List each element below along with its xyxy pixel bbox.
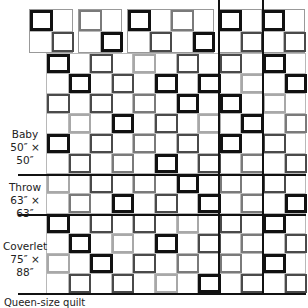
patch-frame	[177, 174, 200, 193]
patch-frame	[263, 134, 286, 153]
grid-cell	[284, 93, 307, 114]
grid-cell	[240, 213, 263, 234]
patch-frame	[47, 214, 70, 233]
patch-frame	[101, 32, 124, 53]
patch-frame	[263, 214, 286, 233]
patch-frame	[112, 74, 135, 93]
patch-frame	[284, 32, 307, 53]
grid-cell	[132, 113, 155, 134]
patch-frame	[112, 274, 135, 293]
grid-cell	[284, 53, 307, 74]
patch-frame	[69, 154, 92, 173]
patch-frame	[112, 194, 135, 213]
patch-frame	[241, 274, 264, 293]
grid-cell	[197, 93, 220, 114]
patch-frame	[155, 114, 178, 133]
patch-frame	[263, 174, 286, 193]
patch-frame	[241, 32, 264, 53]
grid-cell	[197, 53, 220, 74]
grid-cell	[89, 153, 112, 174]
size-label-baby: Baby 50″ × 50″	[2, 128, 48, 167]
patch-frame	[30, 10, 53, 31]
grid-cell	[262, 113, 285, 134]
grid-cell	[219, 73, 242, 94]
patch-frame	[177, 254, 200, 273]
grid-cell	[111, 133, 134, 154]
patch-frame	[177, 54, 200, 73]
patch-frame	[90, 134, 113, 153]
patch-frame	[263, 254, 286, 273]
grid-cell	[219, 193, 242, 214]
grid-cell	[46, 153, 69, 174]
grid-cell	[176, 113, 199, 134]
grid-cell	[111, 93, 134, 114]
patch-frame	[285, 154, 308, 173]
size-separator-line	[262, 0, 264, 294]
patch-frame	[69, 234, 92, 253]
grid-cell	[197, 253, 220, 274]
size-name: Baby	[2, 128, 48, 141]
patch-frame	[112, 114, 135, 133]
grid-cell	[154, 173, 177, 194]
patch-frame	[155, 234, 178, 253]
grid-cell	[132, 153, 155, 174]
grid-cell	[240, 173, 263, 194]
grid-cell	[46, 273, 69, 294]
patch-frame	[241, 74, 264, 93]
grid-cell	[284, 133, 307, 154]
patch-frame	[112, 154, 135, 173]
patch-frame	[285, 74, 308, 93]
patch-frame	[220, 134, 243, 153]
patch-frame	[155, 74, 178, 93]
size-dims: 50″ × 50″	[2, 141, 48, 167]
patch-frame	[47, 174, 70, 193]
patch-frame	[193, 32, 216, 53]
grid-cell	[132, 73, 155, 94]
size-name: Throw	[2, 181, 48, 194]
patch-frame	[171, 10, 194, 31]
patch-frame	[177, 134, 200, 153]
patch-frame	[220, 254, 243, 273]
patch-frame	[241, 114, 264, 133]
grid-cell	[284, 213, 307, 234]
grid-cell	[219, 113, 242, 134]
patch-frame	[69, 194, 92, 213]
patch-frame	[90, 94, 113, 113]
patch-frame	[69, 274, 92, 293]
patch-frame	[128, 10, 151, 31]
grid-cell	[68, 253, 91, 274]
patch-frame	[47, 94, 70, 113]
patch-frame	[241, 154, 264, 173]
grid-cell	[240, 133, 263, 154]
grid-cell	[219, 153, 242, 174]
patch-frame	[285, 274, 308, 293]
patch-frame	[90, 214, 113, 233]
caption: Queen-size quilt	[4, 297, 85, 308]
grid-cell	[68, 93, 91, 114]
size-dims: 63″ × 63″	[2, 194, 48, 220]
patch-frame	[47, 54, 70, 73]
grid-cell	[219, 233, 242, 254]
grid-cell	[284, 173, 307, 194]
grid-cell	[284, 253, 307, 274]
grid-cell	[197, 133, 220, 154]
patch-frame	[133, 214, 156, 233]
patch-frame	[133, 174, 156, 193]
patch-frame	[155, 274, 178, 293]
patch-frame	[262, 10, 285, 31]
patch-frame	[219, 10, 242, 31]
grid-cell	[89, 73, 112, 94]
grid-cell	[197, 213, 220, 234]
grid-cell	[132, 273, 155, 294]
grid-cell	[197, 173, 220, 194]
patch-frame	[52, 32, 75, 53]
patch-frame	[112, 234, 135, 253]
grid-cell	[132, 193, 155, 214]
patch-frame	[155, 194, 178, 213]
grid-cell	[46, 193, 69, 214]
patch-frame	[155, 154, 178, 173]
patch-frame	[241, 234, 264, 253]
grid-cell	[154, 253, 177, 274]
patch-frame	[47, 134, 70, 153]
grid-cell	[154, 213, 177, 234]
